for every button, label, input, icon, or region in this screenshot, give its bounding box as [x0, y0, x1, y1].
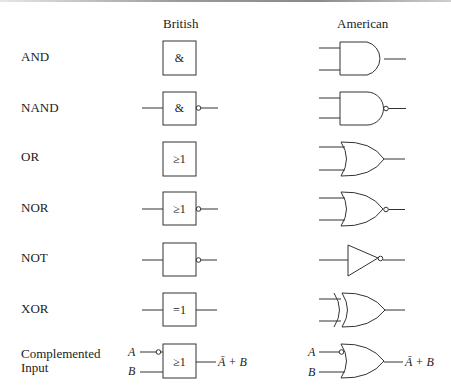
british-not-gate	[142, 243, 217, 276]
negation-bubble	[384, 207, 389, 212]
british-and-gate: &	[163, 41, 196, 75]
american-not-gate	[319, 245, 405, 276]
british-xor-gate: =1	[142, 293, 217, 326]
input-a-label: A	[307, 345, 316, 359]
british-complemented-symbol: ≥1	[173, 355, 186, 369]
negation-bubble	[196, 106, 201, 111]
british-complemented-input-gate: A B ≥1 Ā + B	[127, 344, 247, 378]
negation-bubble	[196, 207, 201, 212]
logic-gate-diagram: & & ≥1 ≥1 =1 A B	[0, 0, 451, 391]
input-b-label: B	[308, 365, 316, 379]
negation-bubble	[384, 106, 389, 111]
negation-bubble	[378, 256, 383, 261]
american-nor-gate	[319, 192, 405, 226]
british-nand-gate: &	[142, 92, 218, 125]
negation-bubble	[339, 350, 344, 355]
british-nand-symbol: &	[175, 101, 185, 115]
british-output-expression: Ā + B	[217, 355, 247, 369]
british-or-symbol: ≥1	[173, 152, 186, 166]
input-a-label: A	[127, 345, 136, 359]
british-xor-symbol: =1	[173, 303, 186, 317]
british-and-symbol: &	[175, 51, 185, 65]
british-nor-gate: ≥1	[142, 192, 218, 225]
american-output-expression: Ā + B	[404, 355, 434, 369]
american-complemented-input-gate: A B Ā + B	[307, 344, 434, 379]
british-or-gate: ≥1	[163, 142, 196, 176]
american-nand-gate	[319, 92, 406, 125]
input-b-label: B	[128, 364, 136, 378]
negation-bubble	[196, 258, 201, 263]
negation-bubble	[156, 350, 161, 355]
british-nor-symbol: ≥1	[173, 202, 186, 216]
american-xor-gate	[319, 293, 405, 327]
american-and-gate	[319, 42, 406, 75]
american-or-gate	[319, 142, 405, 176]
